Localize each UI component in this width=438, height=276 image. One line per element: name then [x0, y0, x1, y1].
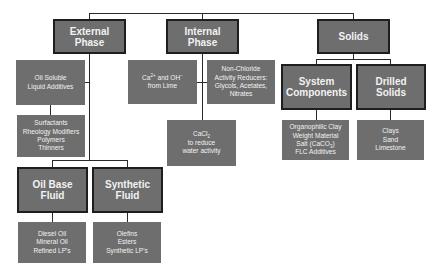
system-item: Organophilic Clay — [289, 123, 341, 131]
drilled-item: Sand — [383, 136, 398, 144]
oil-base-item: Refined LP's — [33, 247, 70, 255]
internal-phase-title-2: Phase — [188, 37, 217, 48]
drilled-solids-title-2: Solids — [376, 87, 406, 98]
external-trunk — [89, 53, 90, 160]
additive-item: Surfactants — [34, 119, 67, 127]
non-chloride-box: Non-Chloride Activity Reducers: Glycols,… — [207, 60, 275, 104]
drilled-solids-items-box: Clays Sand Limestone — [357, 120, 424, 160]
lime-line-2: from Lime — [148, 82, 177, 90]
fluid-bar — [52, 160, 127, 161]
oil-soluble-line-1: Oil Soluble — [35, 74, 67, 82]
external-phase-title-2: Phase — [75, 37, 104, 48]
oil-base-fluid-title-2: Fluid — [41, 190, 65, 201]
solids-title: Solids — [338, 31, 368, 42]
drilled-solids-title-1: Drilled — [375, 76, 406, 87]
system-components-box: System Components — [281, 64, 352, 110]
salt-text: Salt (CaCO — [296, 140, 330, 147]
cacl2-box: CaCl2 to reduce water activity — [167, 120, 236, 166]
internal-phase-box: Internal Phase — [166, 19, 239, 54]
additive-item: Polymers — [37, 136, 64, 144]
fluid-drop-synthetic — [127, 160, 128, 167]
drilled-item: Limestone — [375, 144, 405, 152]
cacl2-line-2: to reduce — [188, 139, 216, 147]
synthetic-item: Esters — [118, 238, 137, 246]
drilled-item: Clays — [382, 127, 399, 135]
system-item: FLC Additives — [295, 148, 336, 156]
additive-item: Thinners — [38, 144, 64, 152]
internal-trunk — [202, 53, 203, 120]
solids-bar — [316, 59, 391, 60]
cacl2-line-1: CaCl2 — [193, 130, 210, 138]
system-components-title-2: Components — [286, 87, 347, 98]
external-phase-title-1: External — [70, 26, 109, 37]
oil-based-mud-composition-diagram: External Phase Oil Soluble Liquid Additi… — [0, 0, 438, 276]
salt-paren: ) — [333, 140, 335, 147]
synthetic-fluid-box: Synthetic Fluid — [92, 167, 163, 213]
lime-box: Ca2+ and OH− from Lime — [128, 60, 197, 104]
non-chloride-line: Activity Reducers: — [215, 74, 268, 82]
oil-soluble-line-2: Liquid Additives — [28, 83, 74, 91]
non-chloride-line: Nitrates — [230, 90, 253, 98]
non-chloride-line: Non-Chloride — [222, 65, 261, 73]
cacl-text: CaCl — [193, 130, 208, 137]
synthetic-fluid-title-2: Fluid — [116, 190, 140, 201]
system-item: Weight Material — [293, 132, 339, 140]
lime-line-1: Ca2+ and OH− — [142, 74, 183, 82]
oil-base-fluid-items-box: Diesel Oil Mineral Oil Refined LP's — [18, 222, 86, 263]
system-item-salt: Salt (CaCO3) — [296, 140, 334, 148]
solids-box: Solids — [317, 19, 390, 54]
synthetic-fluid-title-1: Synthetic — [105, 179, 150, 190]
internal-branch — [197, 82, 207, 83]
oil-base-fluid-title-1: Oil Base — [32, 179, 72, 190]
synthetic-item: Olefins — [117, 230, 138, 238]
drilled-solids-box: Drilled Solids — [356, 64, 426, 110]
oh-charge: − — [180, 72, 183, 77]
non-chloride-line: Glycols, Acetates, — [215, 82, 267, 90]
system-to-items — [316, 109, 317, 120]
system-components-title-1: System — [299, 76, 335, 87]
oil-base-item: Diesel Oil — [38, 230, 66, 238]
synthetic-to-items — [127, 212, 128, 222]
drilled-to-items — [390, 109, 391, 120]
cacl2-line-3: water activity — [182, 147, 220, 155]
internal-phase-title-1: Internal — [184, 26, 220, 37]
synthetic-item: Synthetic LP's — [106, 247, 148, 255]
system-components-items-box: Organophilic Clay Weight Material Salt (… — [282, 120, 349, 160]
oil-soluble-to-list — [50, 105, 51, 115]
external-to-oil-soluble — [85, 82, 90, 83]
oh-text: and OH — [156, 74, 181, 81]
top-connector — [89, 13, 354, 14]
oil-soluble-box: Oil Soluble Liquid Additives — [16, 60, 85, 105]
synthetic-fluid-items-box: Olefins Esters Synthetic LP's — [93, 222, 161, 263]
fluid-drop-oil — [52, 160, 53, 167]
oil-base-item: Mineral Oil — [36, 238, 68, 246]
oil-base-fluid-box: Oil Base Fluid — [17, 167, 88, 213]
additive-item: Rheology Modifiers — [23, 128, 79, 136]
oil-to-items — [52, 212, 53, 222]
ca-text: Ca — [142, 74, 150, 81]
additives-list-box: Surfactants Rheology Modifiers Polymers … — [17, 115, 85, 157]
external-phase-box: External Phase — [53, 19, 126, 54]
